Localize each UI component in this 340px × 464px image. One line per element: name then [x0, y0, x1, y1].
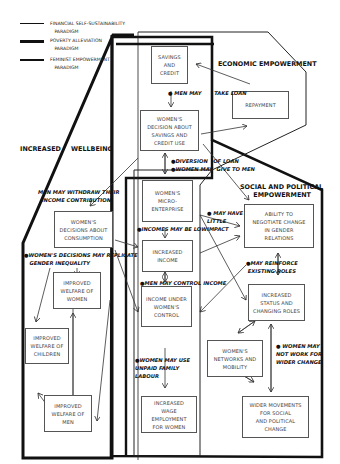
legend-label: POVERTY ALLEVIATION PARADIGM — [50, 37, 102, 53]
note-unpaid-labour: ●WOMEN MAY USE UNPAID FAMILY LABOUR — [135, 356, 190, 380]
note-little-impact: ● MAY HAVE LITTLE IMPACT — [207, 209, 243, 233]
box-decision-savings-credit: WOMEN'S DECISION ABOUT SAVINGS AND CREDI… — [140, 110, 199, 151]
note-men-take-loan: ● MEN MAY TAKE LOAN — [168, 89, 247, 97]
note-reinforce-roles: ●MAY REINFORCE EXISTING ROLES — [246, 259, 298, 275]
box-increased-income: INCREASED INCOME — [142, 240, 193, 272]
note-diversion-of-loan: ●DIVERSION OF LOAN ●WOMEN MAY GIVE TO ME… — [171, 157, 255, 173]
box-welfare-children: IMPROVED WELFARE OF CHILDREN — [25, 328, 69, 364]
legend-thin-line — [20, 23, 44, 24]
legend-financial: FINANCIAL SELF-SUSTAINABILITY PARADIGM — [20, 20, 125, 36]
box-wider-movements: WIDER MOVEMENTS FOR SOCIAL AND POLITICAL… — [242, 396, 309, 438]
box-wage-employment: INCREASED WAGE EMPLOYMENT FOR WOMEN — [141, 396, 197, 433]
legend-label: FINANCIAL SELF-SUSTAINABILITY PARADIGM — [50, 20, 125, 36]
legend-medium-line — [20, 59, 44, 61]
box-income-control: INCOME UNDER WOMEN'S CONTROL — [141, 286, 192, 327]
legend-thick-line — [20, 40, 44, 43]
box-negotiate-change: ABILITY TO NEGOTIATE CHANGE IN GENDER RE… — [244, 204, 314, 248]
heading-wellbeing: WELLBEING — [71, 145, 113, 153]
heading-increased: INCREASED — [20, 145, 61, 153]
box-micro-enterprise: WOMEN'S MICRO- ENTERPRISE — [142, 180, 193, 222]
box-networks-mobility: WOMEN'S NETWORKS AND MOBILITY — [207, 340, 263, 377]
note-men-control-income: ●MEN MAY CONTROL INCOME — [140, 279, 226, 287]
note-replicate-inequality: ●WOMEN'S DECISIONS MAY REPLICATE GENDER … — [24, 251, 138, 267]
box-savings-credit: SAVINGS AND CREDIT — [151, 46, 188, 84]
box-welfare-women: IMPROVED WELFARE OF WOMEN — [53, 272, 101, 309]
note-not-work-wider-change: ● WOMEN MAY NOT WORK FOR WIDER CHANGE — [276, 342, 322, 366]
box-decisions-consumption: WOMEN'S DECISIONS ABOUT CONSUMPTION — [54, 211, 113, 248]
box-welfare-men: IMPROVED WELFARE OF MEN — [44, 395, 92, 432]
heading-economic-empowerment: ECONOMIC EMPOWERMENT — [218, 60, 317, 68]
legend-feminist: FEMINIST EMPOWERMENT PARADIGM — [20, 56, 110, 72]
legend-poverty: POVERTY ALLEVIATION PARADIGM — [20, 37, 102, 53]
legend-label: FEMINIST EMPOWERMENT PARADIGM — [50, 56, 110, 72]
note-men-withdraw-income: MEN MAY WITHDRAW THEIR INCOME CONTRIBUTI… — [38, 188, 119, 204]
box-status-roles: INCREASED STATUS AND CHANGING ROLES — [248, 284, 305, 321]
note-incomes-low: ●INCOMES MAY BE LOW — [137, 225, 207, 233]
heading-social-political: SOCIAL AND POLITICAL EMPOWERMENT — [240, 183, 323, 199]
